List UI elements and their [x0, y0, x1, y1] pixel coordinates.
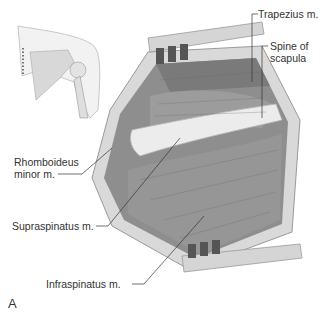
- label-spine-of-scapula-line1: Spine of: [270, 40, 309, 52]
- panel-letter: A: [8, 296, 17, 311]
- label-supraspinatus: Supraspinatus m.: [12, 220, 94, 232]
- inset-shoulder: [18, 26, 100, 118]
- label-rhomboideus-line1: Rhomboideus: [14, 156, 79, 168]
- label-spine-of-scapula-line2: scapula: [270, 52, 306, 64]
- anatomical-figure: Trapezius m. Spine of scapula Rhomboideu…: [0, 0, 327, 314]
- label-infraspinatus: Infraspinatus m.: [46, 278, 121, 290]
- label-trapezius: Trapezius m.: [258, 8, 318, 20]
- label-rhomboideus-line2: minor m.: [14, 168, 55, 180]
